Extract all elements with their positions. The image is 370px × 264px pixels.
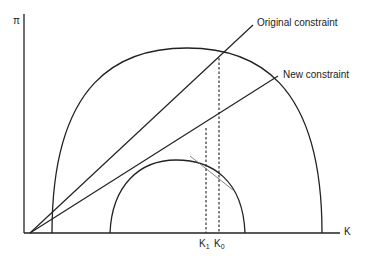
outer-curve: [52, 48, 322, 233]
k1-sub: 1: [206, 243, 210, 250]
tangent-line: [190, 156, 233, 190]
new-constraint-label: New constraint: [283, 69, 349, 80]
inner-curve: [110, 160, 245, 233]
y-axis-label: π: [13, 15, 20, 26]
original-constraint-label: Original constraint: [257, 17, 338, 28]
diagram-canvas: [0, 0, 370, 264]
k1-label: K1: [199, 238, 210, 250]
k0-label: K0: [214, 238, 225, 250]
original-constraint-line: [30, 25, 253, 233]
new-constraint-line: [30, 76, 278, 233]
x-axis-label: K: [344, 226, 351, 237]
k1-main: K: [199, 238, 206, 249]
k0-main: K: [214, 238, 221, 249]
k0-sub: 0: [221, 243, 225, 250]
